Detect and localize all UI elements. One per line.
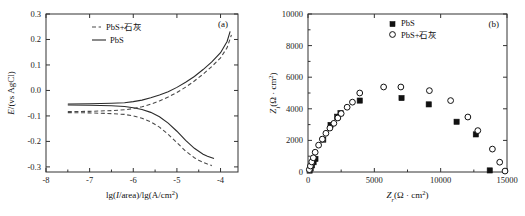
panel-b-ylabel: Zi(Ω · cm2) — [267, 72, 281, 113]
data-point-pbs-lime — [350, 99, 356, 105]
data-point-pbs-lime — [344, 104, 350, 110]
data-point-pbs-lime — [312, 149, 318, 155]
panel-a-xlabel: lg(I/area)/lg(A/cm2) — [106, 189, 178, 201]
x-tick-label: -5 — [173, 175, 180, 185]
data-point-pbs-lime — [319, 136, 325, 142]
legend-marker-open-circle — [390, 32, 396, 38]
y-tick-label: 4000 — [286, 104, 303, 114]
data-point-pbs-lime — [310, 155, 316, 161]
y-tick-label: 0.0 — [30, 85, 41, 95]
data-point-pbs-lime — [357, 90, 363, 96]
data-point-pbs — [399, 95, 404, 100]
data-point-pbs-lime — [316, 142, 322, 148]
legend-label-pbs: PbS — [401, 18, 415, 28]
panel-b-xlabel: Zr(Ω · cm2) — [387, 189, 429, 203]
data-point-pbs-lime — [502, 168, 508, 174]
panel-a-svg: -8-7-6-5-40.30.20.10.0-0.1-0.2-0.3PbS+石灰… — [0, 0, 262, 216]
x-tick-label: 0 — [306, 175, 310, 185]
curve-pbs-anodic — [68, 31, 230, 104]
curve-pbs-lime-anodic — [68, 35, 232, 112]
y-tick-label: 0.2 — [30, 34, 41, 44]
data-point-pbs-lime — [465, 114, 471, 120]
figure-container: -8-7-6-5-40.30.20.10.0-0.1-0.2-0.3PbS+石灰… — [0, 0, 525, 216]
x-tick-label: 15000 — [496, 175, 517, 185]
data-point-pbs — [454, 119, 459, 124]
y-tick-label: 2000 — [286, 135, 303, 145]
x-tick-label: 5000 — [366, 175, 383, 185]
y-tick-label: 0.1 — [30, 60, 41, 70]
data-point-pbs-lime — [448, 98, 454, 104]
panel-a-tafel-plot: -8-7-6-5-40.30.20.10.0-0.1-0.2-0.3PbS+石灰… — [0, 0, 262, 216]
data-point-pbs-lime — [331, 120, 337, 126]
x-tick-label: -4 — [217, 175, 225, 185]
data-point-pbs-lime — [475, 128, 481, 134]
y-tick-label: 10000 — [282, 9, 303, 19]
y-tick-label: -0.2 — [28, 136, 41, 146]
legend-marker-filled-square — [390, 22, 395, 27]
x-tick-label: 10000 — [430, 175, 451, 185]
panel-a-axes-frame — [46, 14, 238, 172]
y-tick-label: -0.3 — [28, 162, 41, 172]
y-tick-label: 0.3 — [30, 9, 41, 19]
panel-b-svg: 0500010000150000200040006000800010000PbS… — [262, 0, 524, 216]
y-tick-label: 0 — [299, 167, 303, 177]
x-tick-label: -6 — [130, 175, 137, 185]
legend-label-pbs: PbS — [110, 35, 124, 45]
data-point-pbs-lime — [497, 159, 503, 165]
data-point-pbs-lime — [426, 88, 432, 94]
panel-a-tag: (a) — [218, 19, 228, 29]
panel-a-ylabel: E/(vs AgCl) — [6, 71, 16, 115]
data-point-pbs — [426, 102, 431, 107]
data-point-pbs-lime — [323, 130, 329, 136]
y-tick-label: -0.1 — [28, 111, 41, 121]
panel-b-tag: (b) — [489, 19, 500, 29]
panel-b-nyquist-plot: 0500010000150000200040006000800010000PbS… — [262, 0, 524, 216]
data-point-pbs-lime — [398, 84, 404, 90]
x-tick-label: -7 — [86, 175, 93, 185]
data-point-pbs — [357, 98, 362, 103]
curve-pbs-lime-cathodic — [68, 113, 212, 166]
data-point-pbs-lime — [490, 146, 496, 152]
legend-label-pbs-lime: PbS+石灰 — [401, 30, 438, 40]
legend-label-pbs-lime: PbS+石灰 — [106, 22, 143, 32]
data-point-pbs — [487, 168, 492, 173]
y-tick-label: 8000 — [286, 41, 303, 51]
data-point-pbs-lime — [338, 111, 344, 117]
data-point-pbs-lime — [381, 84, 387, 90]
x-tick-label: -8 — [42, 175, 49, 185]
y-tick-label: 6000 — [286, 72, 303, 82]
